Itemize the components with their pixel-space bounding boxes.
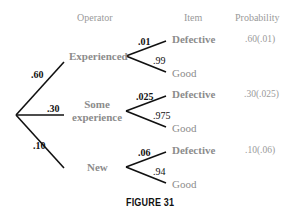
result-experienced: .60(.01) — [245, 34, 275, 44]
prob-new-good: .94 — [153, 166, 166, 177]
header-probability: Probability — [235, 12, 279, 23]
operator-experienced: Experienced — [69, 50, 128, 62]
header-operator: Operator — [77, 12, 113, 23]
header-item: Item — [184, 12, 202, 23]
operator-some-experience: Some experience — [72, 98, 122, 124]
prob-exp-defective: .01 — [138, 36, 151, 47]
operator-some-experience-line2: experience — [72, 111, 122, 124]
prob-some-defective: .025 — [136, 91, 154, 102]
prob-new-defective: .06 — [138, 147, 151, 158]
operator-some-experience-line1: Some — [72, 98, 122, 111]
prob-some-good: .975 — [153, 110, 171, 121]
item-some-defective: Defective — [172, 88, 215, 100]
item-new-good: Good — [172, 178, 196, 190]
prob-some-experience: .30 — [47, 103, 60, 114]
prob-new: .10 — [33, 140, 46, 151]
prob-exp-good: .99 — [153, 55, 166, 66]
item-exp-good: Good — [172, 67, 196, 79]
result-some-experience: .30(.025) — [244, 89, 279, 99]
operator-new: New — [87, 161, 108, 173]
tree-branches — [0, 0, 292, 214]
figure-caption: FIGURE 31 — [126, 196, 174, 208]
item-new-defective: Defective — [172, 144, 215, 156]
result-new: .10(.06) — [245, 145, 275, 155]
item-some-good: Good — [172, 122, 196, 134]
item-exp-defective: Defective — [172, 33, 215, 45]
prob-experienced: .60 — [31, 69, 44, 80]
